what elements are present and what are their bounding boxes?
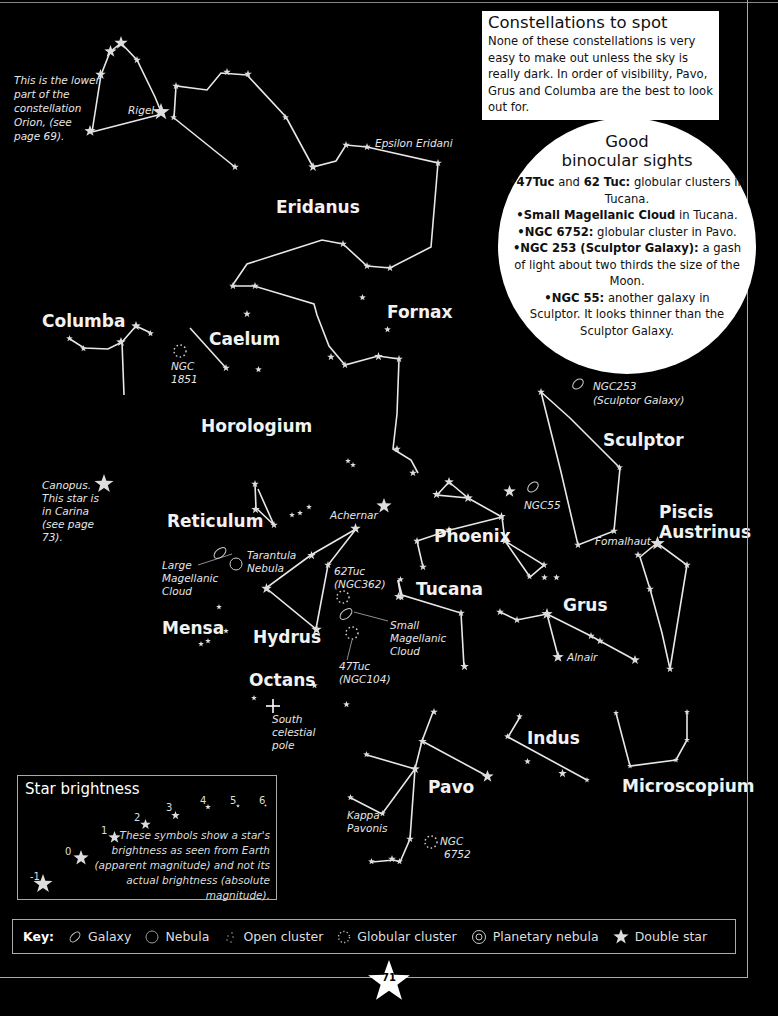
svg-text:Cloud: Cloud <box>162 585 192 597</box>
double-star-icon <box>613 929 629 945</box>
globular-cluster-icon <box>174 345 186 357</box>
panel-text: None of these constellations is very eas… <box>488 33 715 116</box>
svg-text:Orion, (see: Orion, (see <box>14 116 72 128</box>
label-microscopium: Microscopium <box>622 776 755 796</box>
svg-text:(see page: (see page <box>42 518 94 530</box>
svg-text:celestial: celestial <box>272 726 316 738</box>
svg-text:62Tuc: 62Tuc <box>334 565 365 577</box>
label-grus: Grus <box>563 595 608 615</box>
label-alnair: Alnair <box>566 651 598 663</box>
star-mag-3-icon <box>171 811 180 819</box>
label-octans: Octans <box>249 670 315 690</box>
label-phoenix: Phoenix <box>434 526 511 546</box>
label-rigel: Rigel <box>128 104 154 116</box>
svg-text:NGC: NGC <box>440 835 464 847</box>
svg-text:part of the: part of the <box>13 88 70 100</box>
nebula-icon <box>145 930 159 944</box>
globular-cluster-icon <box>337 930 351 944</box>
svg-text:NGC: NGC <box>171 360 195 372</box>
key-item-double-star: Double star <box>613 929 707 945</box>
key-label: Key: <box>23 929 54 944</box>
key-item-galaxy: Galaxy <box>68 929 131 944</box>
label-reticulum: Reticulum <box>167 511 263 531</box>
legend-note: These symbols show a star's brightness a… <box>90 828 270 903</box>
planetary-nebula-icon <box>471 929 487 945</box>
svg-text:Nebula: Nebula <box>247 562 284 574</box>
svg-text:Magellanic: Magellanic <box>390 632 446 644</box>
svg-text:Kappa: Kappa <box>347 809 380 821</box>
key-item-globular-cluster: Globular cluster <box>337 929 456 944</box>
label-indus: Indus <box>527 728 580 748</box>
svg-text:Cloud: Cloud <box>390 645 420 657</box>
svg-text:(NGC104): (NGC104) <box>339 673 391 685</box>
label-piscis: Piscis <box>659 502 713 522</box>
binocular-list: 47Tuc and 62 Tuc: globular clusters in T… <box>498 174 756 339</box>
key-item-open-cluster: Open cluster <box>223 929 323 944</box>
panel-title: Constellations to spot <box>488 13 715 33</box>
svg-text:This is the lower: This is the lower <box>14 74 100 86</box>
list-item: 47Tuc and 62 Tuc: globular clusters in T… <box>498 174 756 207</box>
galaxy-icon <box>571 377 585 391</box>
list-item: Small Magellanic Cloud in Tucana. <box>498 207 756 224</box>
binocular-title-line2: binocular sights <box>498 151 756 170</box>
globular-cluster-icon <box>346 627 358 639</box>
svg-text:Small: Small <box>390 619 419 631</box>
label-caelum: Caelum <box>209 329 280 349</box>
star-mag-5-icon <box>236 804 240 808</box>
star-brightness-legend: Star brightness -1 0 1 2 3 4 5 6 These s… <box>17 775 277 900</box>
binocular-title-line1: Good <box>498 132 756 151</box>
svg-text:Canopus.: Canopus. <box>42 479 91 491</box>
galaxy-icon <box>212 545 228 560</box>
svg-text:page 69).: page 69). <box>13 130 64 142</box>
svg-text:Large: Large <box>162 559 192 571</box>
galaxy-icon <box>526 480 540 494</box>
nebula-icon <box>230 558 242 570</box>
globular-cluster-icon <box>337 591 349 603</box>
svg-text:constellation: constellation <box>14 102 81 114</box>
key-item-nebula: Nebula <box>145 929 209 944</box>
binocular-sights-panel: Good binocular sights 47Tuc and 62 Tuc: … <box>498 118 756 374</box>
south-pole-cross-icon <box>266 699 280 713</box>
svg-text:(NGC362): (NGC362) <box>334 578 386 590</box>
galaxy-icon <box>338 606 354 621</box>
globular-cluster-icon <box>425 836 437 848</box>
list-item: NGC 6752: globular cluster in Pavo. <box>498 224 756 241</box>
svg-text:47Tuc: 47Tuc <box>339 660 370 672</box>
galaxy-icon <box>68 930 82 944</box>
label-epsilon-eridani: Epsilon Eridani <box>375 137 453 149</box>
list-item: NGC 253 (Sculptor Galaxy): a gash of lig… <box>498 240 756 290</box>
svg-text:6752: 6752 <box>444 848 471 860</box>
list-item: NGC 55: another galaxy in Sculptor. It l… <box>498 290 756 340</box>
label-eridanus: Eridanus <box>276 197 360 217</box>
label-horologium: Horologium <box>201 416 312 436</box>
key-item-planetary-nebula: Planetary nebula <box>471 929 599 945</box>
page-number: 71 <box>366 972 412 983</box>
constellations-to-spot-panel: Constellations to spot None of these con… <box>482 11 719 120</box>
page-border-top <box>0 2 778 3</box>
label-fornax: Fornax <box>387 302 453 322</box>
svg-text:73).: 73). <box>42 531 63 543</box>
label-sculptor: Sculptor <box>603 430 684 450</box>
open-cluster-icon <box>223 930 237 944</box>
svg-text:This star is: This star is <box>42 492 99 504</box>
label-mensa: Mensa <box>162 618 224 638</box>
svg-text:South: South <box>272 713 303 725</box>
label-ngc55: NGC55 <box>524 499 561 511</box>
label-hydrus: Hydrus <box>253 627 321 647</box>
svg-text:Pavonis: Pavonis <box>347 822 388 834</box>
svg-text:pole: pole <box>271 739 294 751</box>
star-mag-0-icon <box>73 850 88 864</box>
label-pavo: Pavo <box>428 777 474 797</box>
svg-text:1851: 1851 <box>171 373 198 385</box>
symbol-key: Key: Galaxy Nebula Open cluster Globular… <box>12 919 736 954</box>
svg-text:in Carina: in Carina <box>42 505 89 517</box>
svg-text:Magellanic: Magellanic <box>162 572 218 584</box>
label-tucana: Tucana <box>416 579 483 599</box>
label-fomalhaut: Fomalhaut <box>595 535 652 547</box>
svg-text:NGC253: NGC253 <box>593 380 636 392</box>
label-achernar: Achernar <box>329 509 378 521</box>
svg-text:Tarantula: Tarantula <box>247 549 296 561</box>
label-columba: Columba <box>42 311 125 331</box>
svg-text:(Sculptor Galaxy): (Sculptor Galaxy) <box>593 394 684 406</box>
label-austrinus: Austrinus <box>659 522 751 542</box>
